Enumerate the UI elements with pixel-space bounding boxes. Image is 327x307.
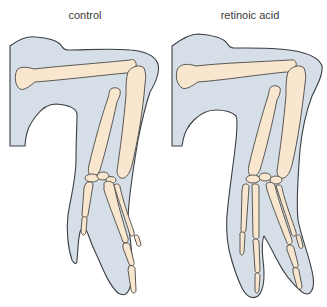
ra-carpal-2 — [259, 173, 271, 181]
control-digit-2-phalanx — [81, 217, 87, 235]
ra-digit-left-phalanx-2 — [255, 273, 260, 293]
ra-carpal-1 — [246, 175, 260, 183]
limb-diagram — [0, 0, 327, 307]
ra-extra-digit-phalanx — [240, 232, 245, 255]
control-wing — [10, 37, 159, 295]
retinoic-acid-wing — [172, 34, 322, 298]
ra-digit-left-metacarpal — [252, 184, 259, 239]
control-digit-4-phalanx — [134, 235, 141, 246]
